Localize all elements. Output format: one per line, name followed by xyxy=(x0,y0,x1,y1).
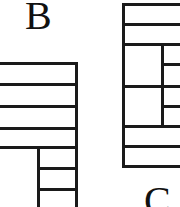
figure-b-hline-3 xyxy=(0,127,78,130)
figure-c-label: C xyxy=(144,181,171,207)
figure-c-inner-vline xyxy=(161,43,164,128)
diagram-canvas: B C xyxy=(0,0,180,207)
figure-b-right-edge xyxy=(75,62,78,207)
figure-c-hline-4 xyxy=(122,125,180,128)
figure-b-hline-2 xyxy=(0,105,78,108)
figure-b-sub-hline-2 xyxy=(37,188,78,191)
figure-b-hline-1 xyxy=(0,83,78,86)
figure-b-label: B xyxy=(25,0,52,36)
figure-b-inner-vline xyxy=(37,146,40,207)
figure-c-hline-3 xyxy=(122,85,180,88)
figure-c-hline-1 xyxy=(122,23,180,26)
figure-c-sub-hline-1 xyxy=(161,63,180,66)
figure-c-hline-2 xyxy=(122,43,180,46)
figure-c-top-edge xyxy=(122,3,180,6)
figure-c-sub-hline-2 xyxy=(161,105,180,108)
figure-c-hline-5 xyxy=(122,145,180,148)
figure-c-bottom-edge xyxy=(122,165,180,168)
figure-b-top-edge xyxy=(0,62,78,65)
figure-b-sub-hline-1 xyxy=(37,167,78,170)
